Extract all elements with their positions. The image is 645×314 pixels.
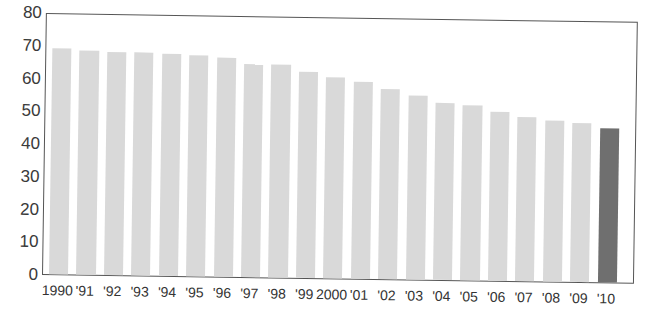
bar-chart: 01020304050607080 1990'91'92'93'94'95'96… bbox=[0, 0, 645, 314]
bar bbox=[214, 58, 236, 277]
y-tick-label: 0 bbox=[28, 266, 38, 284]
y-tick-label: 60 bbox=[22, 69, 41, 87]
bar bbox=[268, 65, 290, 278]
bar bbox=[543, 121, 565, 282]
bar bbox=[131, 52, 153, 276]
x-tick-label: 1990 bbox=[42, 282, 73, 298]
highlight-bar bbox=[598, 128, 619, 283]
x-tick-label: '98 bbox=[268, 285, 286, 301]
bar bbox=[104, 52, 126, 276]
y-tick-label: 80 bbox=[23, 4, 42, 22]
x-tick-label: '96 bbox=[213, 285, 231, 301]
bar bbox=[378, 89, 400, 279]
x-tick-label: '03 bbox=[405, 287, 423, 303]
bar bbox=[49, 48, 72, 274]
x-tick-label: '10 bbox=[597, 290, 615, 306]
bars-container bbox=[43, 14, 637, 283]
y-axis: 01020304050607080 bbox=[0, 0, 42, 314]
bar bbox=[570, 123, 592, 282]
bar bbox=[515, 117, 537, 281]
x-tick-label: '09 bbox=[569, 290, 587, 306]
x-tick-label: '99 bbox=[295, 286, 313, 302]
x-tick-label: '05 bbox=[460, 288, 478, 304]
bar bbox=[76, 50, 99, 275]
bar bbox=[241, 64, 263, 277]
x-tick-label: '07 bbox=[514, 289, 532, 305]
bar bbox=[296, 71, 318, 278]
y-tick-label: 10 bbox=[19, 233, 38, 251]
bar bbox=[460, 105, 482, 281]
x-axis: 1990'91'92'93'94'95'96'97'98'992000'01'0… bbox=[42, 282, 634, 314]
plot-area bbox=[42, 13, 638, 284]
x-tick-label: '94 bbox=[158, 284, 176, 300]
x-tick-label: '04 bbox=[432, 288, 450, 304]
x-tick-label: '95 bbox=[185, 284, 203, 300]
x-tick-label: '02 bbox=[377, 287, 395, 303]
bar bbox=[406, 96, 428, 280]
bar bbox=[351, 82, 373, 279]
y-tick-label: 40 bbox=[21, 135, 40, 153]
x-tick-label: '97 bbox=[240, 285, 258, 301]
bar bbox=[186, 55, 208, 276]
bar bbox=[323, 77, 345, 279]
y-tick-label: 20 bbox=[20, 200, 39, 218]
x-tick-label: '93 bbox=[130, 283, 148, 299]
x-tick-label: '01 bbox=[350, 287, 368, 303]
y-tick-label: 30 bbox=[20, 167, 39, 185]
bar bbox=[159, 54, 181, 276]
x-tick-label: '06 bbox=[487, 289, 505, 305]
x-tick-label: '92 bbox=[103, 283, 121, 299]
bar bbox=[433, 103, 455, 280]
x-tick-label: '91 bbox=[76, 283, 94, 299]
y-tick-label: 50 bbox=[21, 102, 40, 120]
bar bbox=[488, 112, 510, 281]
y-tick-label: 70 bbox=[22, 36, 41, 54]
x-tick-label: '08 bbox=[542, 289, 560, 305]
x-tick-label: 2000 bbox=[316, 286, 347, 302]
